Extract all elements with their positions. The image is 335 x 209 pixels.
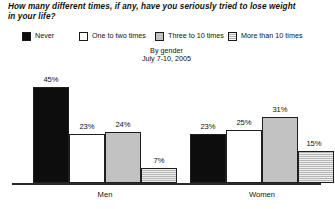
legend-swatch-never-icon	[22, 32, 31, 41]
chart-legend: Never One to two times Three to 10 times…	[22, 29, 322, 43]
legend-swatch-one-to-two-times-icon	[79, 32, 88, 41]
bar-value-men-three-to-10-times: 24%	[100, 121, 146, 129]
bar-women-never	[190, 134, 226, 183]
bar-women-more-than-10-times	[298, 151, 334, 183]
legend-item-three-to-10-times: Three to 10 times	[155, 29, 224, 43]
legend-swatch-more-than-10-times-icon	[228, 32, 237, 41]
bar-men-more-than-10-times	[141, 168, 177, 183]
plot-area: 45% 23% 24% 7% 23% 25% 31% 15%	[0, 66, 333, 186]
chart-subtitle-line-2: July 7-10, 2005	[0, 55, 333, 63]
bar-value-women-more-than-10-times: 15%	[293, 140, 335, 148]
bar-value-men-more-than-10-times: 7%	[136, 157, 182, 165]
bar-women-one-to-two-times	[226, 130, 262, 183]
legend-label-one-to-two-times: One to two times	[92, 32, 146, 40]
bar-value-men-never: 45%	[28, 76, 74, 84]
legend-label-more-than-10-times: More than 10 times	[241, 32, 303, 40]
bar-men-one-to-two-times	[69, 134, 105, 183]
bar-value-women-three-to-10-times: 31%	[257, 106, 303, 114]
bar-value-women-one-to-two-times: 25%	[221, 119, 267, 127]
legend-item-never: Never	[22, 29, 54, 43]
legend-item-more-than-10-times: More than 10 times	[228, 29, 303, 43]
legend-label-three-to-10-times: Three to 10 times	[168, 32, 224, 40]
group-label-men: Men	[65, 190, 145, 199]
bar-men-never	[33, 87, 69, 183]
bar-women-three-to-10-times	[262, 117, 298, 183]
group-label-women: Women	[222, 190, 302, 199]
legend-item-one-to-two-times: One to two times	[79, 29, 146, 43]
chart-subtitle: By gender July 7-10, 2005	[0, 47, 333, 64]
legend-swatch-three-to-10-times-icon	[155, 32, 164, 41]
chart-title-line-1: How many different times, if any, have y…	[8, 2, 324, 12]
chart-title-line-2: in your life?	[8, 12, 324, 22]
legend-label-never: Never	[35, 32, 54, 40]
x-axis-line	[12, 183, 321, 185]
chart-title: How many different times, if any, have y…	[8, 2, 324, 21]
